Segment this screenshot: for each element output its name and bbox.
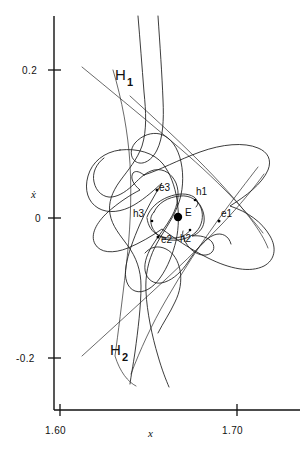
curve-star xyxy=(93,145,274,270)
label-h2: h2 xyxy=(180,233,192,244)
y-tick-label-m0p2: -0.2 xyxy=(16,353,35,364)
label-E: E xyxy=(185,207,192,218)
label-e1: e1 xyxy=(221,208,233,219)
point-h1 xyxy=(194,199,197,202)
curve-outer-lobed xyxy=(93,158,231,283)
curve-asymptotic-H1-branch xyxy=(130,96,268,248)
curve-separatrix-bottom-lobe xyxy=(145,247,181,333)
y-axis-title: ẋ xyxy=(30,188,36,200)
phase-space-plot: 0.2 0 -0.2 1.60 1.70 ẋ x xyxy=(0,0,307,451)
point-e2 xyxy=(157,236,160,239)
label-e3: e3 xyxy=(159,182,171,193)
point-label-group: E e1 e2 e3 h1 h2 h3 xyxy=(133,182,233,245)
label-h1: h1 xyxy=(196,186,208,197)
label-H2-subscript: 2 xyxy=(122,351,128,363)
x-tick-label-1p70: 1.70 xyxy=(222,425,243,436)
point-h3 xyxy=(151,220,154,223)
curve-long-sweep xyxy=(113,70,136,386)
label-H2: H xyxy=(110,341,121,358)
point-e1 xyxy=(218,220,221,223)
figure-root: 0.2 0 -0.2 1.60 1.70 ẋ x xyxy=(0,0,307,451)
label-h3: h3 xyxy=(133,208,145,219)
axis-title-group: ẋ x xyxy=(30,188,153,439)
x-axis-title: x xyxy=(147,427,153,439)
point-E xyxy=(174,213,182,221)
x-tick-label-1p60: 1.60 xyxy=(45,425,66,436)
y-tick-label-0: 0 xyxy=(35,213,41,224)
manifold-label-group: H 1 H 2 xyxy=(110,66,133,363)
label-e2: e2 xyxy=(161,234,173,245)
label-H1: H xyxy=(115,66,126,83)
point-h2 xyxy=(189,229,192,232)
label-H1-subscript: 1 xyxy=(127,76,133,88)
curve-asymptotic-H2-branch xyxy=(131,167,258,374)
y-tick-label-0p2: 0.2 xyxy=(22,65,37,76)
